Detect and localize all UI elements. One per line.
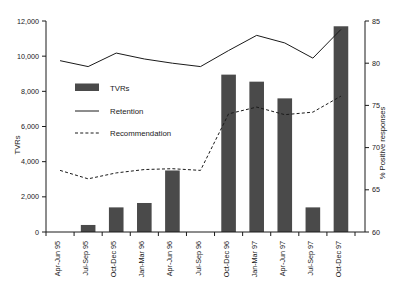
y-axis-left-tick-label: 6,000 (21, 122, 39, 131)
chart-legend: TVRsRetentionRecommendation (75, 84, 171, 138)
x-axis-category-label: Jul-Sep 96 (194, 241, 203, 275)
y-axis-left-tick-label: 4,000 (21, 157, 39, 166)
chart-container: 02,0004,0006,0008,00010,00012,000 TVRs 6… (0, 0, 394, 301)
bar-oct-dec-96 (221, 75, 236, 232)
x-axis-category-label: Apr-Jun 97 (278, 241, 287, 276)
plot-area (60, 26, 348, 232)
y-axis-right-title: % Positive responses (378, 107, 387, 180)
y-axis-right-tick-label: 85 (372, 17, 380, 26)
y-axis-right-tick-label: 65 (372, 185, 380, 194)
line-series-retention (60, 29, 341, 66)
legend-label-tvrs: TVRs (110, 84, 130, 93)
y-axis-left-tick-label: 12,000 (17, 17, 39, 26)
y-axis-right: 606570758085 % Positive responses (365, 17, 387, 237)
x-axis-category-label: Jul-Sep 97 (306, 241, 315, 275)
x-axis-ticks (46, 232, 355, 236)
y-axis-left-tick-label: 0 (35, 228, 39, 237)
y-axis-left-tick-label: 2,000 (21, 192, 39, 201)
x-axis-category-label: Oct-Dec 96 (222, 241, 231, 277)
x-axis-category-label: Jan-Mar 97 (250, 241, 259, 277)
y-axis-right-tick-label: 80 (372, 59, 380, 68)
legend-label-retention: Retention (110, 107, 143, 116)
y-axis-left-ticks: 02,0004,0006,0008,00010,00012,000 (17, 17, 46, 237)
bar-apr-jun-96 (165, 170, 180, 232)
bar-apr-jun-97 (277, 98, 292, 232)
x-axis-category-label: Apr-Jun 96 (165, 241, 174, 276)
bar-jul-sep-95 (81, 225, 96, 232)
bar-oct-dec-97 (334, 26, 349, 232)
x-axis-category-label: Oct-Dec 95 (109, 241, 118, 277)
x-axis-category-label: Apr-Jun 95 (53, 241, 62, 276)
y-axis-right-tick-label: 60 (372, 228, 380, 237)
bar-jan-mar-96 (137, 203, 152, 232)
legend-marker-tvrs (75, 84, 99, 92)
x-axis-category-labels: Apr-Jun 95Jul-Sep 95Oct-Dec 95Jan-Mar 96… (53, 241, 343, 277)
y-axis-left-title: TVRs (13, 135, 22, 154)
bar-oct-dec-95 (109, 207, 124, 232)
y-axis-left-tick-label: 8,000 (21, 87, 39, 96)
x-axis-category-label: Jan-Mar 96 (137, 241, 146, 277)
legend-label-recommendation: Recommendation (110, 129, 171, 138)
x-axis-category-label: Oct-Dec 97 (334, 241, 343, 277)
x-axis: Apr-Jun 95Jul-Sep 95Oct-Dec 95Jan-Mar 96… (46, 232, 365, 277)
line-series-recommendation (60, 96, 341, 179)
bar-jul-sep-97 (306, 207, 321, 232)
dual-axis-combo-chart: 02,0004,0006,0008,00010,00012,000 TVRs 6… (0, 0, 394, 301)
y-axis-left: 02,0004,0006,0008,00010,00012,000 TVRs (13, 17, 46, 237)
x-axis-category-label: Jul-Sep 95 (81, 241, 90, 275)
y-axis-left-tick-label: 10,000 (17, 52, 39, 61)
bar-jan-mar-97 (249, 82, 264, 232)
